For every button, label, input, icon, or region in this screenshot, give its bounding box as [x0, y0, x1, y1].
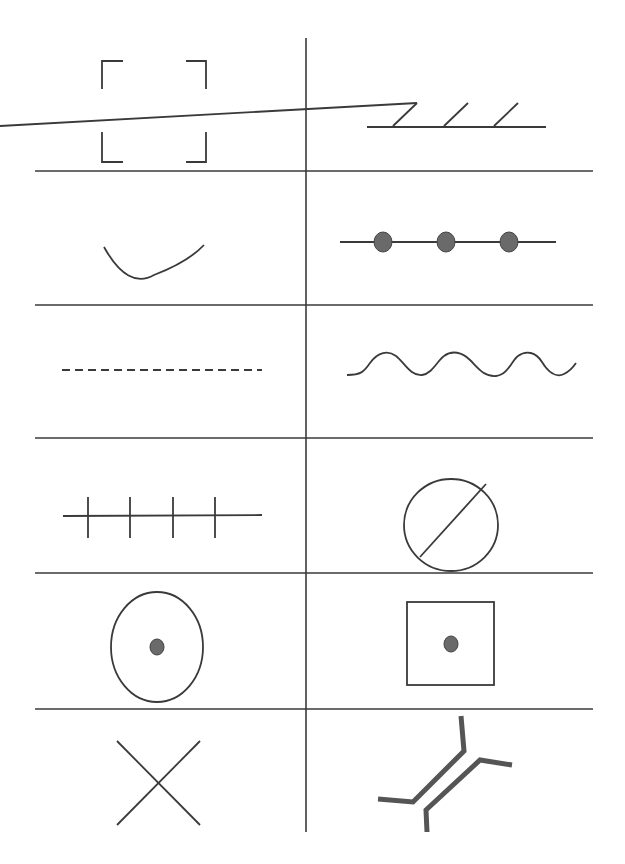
dot-1: [374, 232, 392, 252]
dot-3: [500, 232, 518, 252]
symbol-grid-diagram: [0, 0, 625, 864]
dot-2: [437, 232, 455, 252]
arc-icon: [104, 245, 204, 279]
grid-dividers: [35, 38, 593, 832]
circle-with-slash-icon: [404, 479, 498, 571]
square-with-center-dot-icon: [407, 602, 494, 685]
line-with-ticks-icon: [63, 497, 262, 538]
wavy-line-icon: [347, 353, 576, 377]
circle-with-center-dot-icon: [111, 592, 203, 702]
line-with-dots-icon: [340, 232, 556, 252]
x-cross-icon: [117, 741, 200, 825]
bridge-icon: [378, 716, 512, 832]
corner-brackets-icon: [102, 61, 206, 162]
hatched-line-icon: [0, 103, 546, 127]
